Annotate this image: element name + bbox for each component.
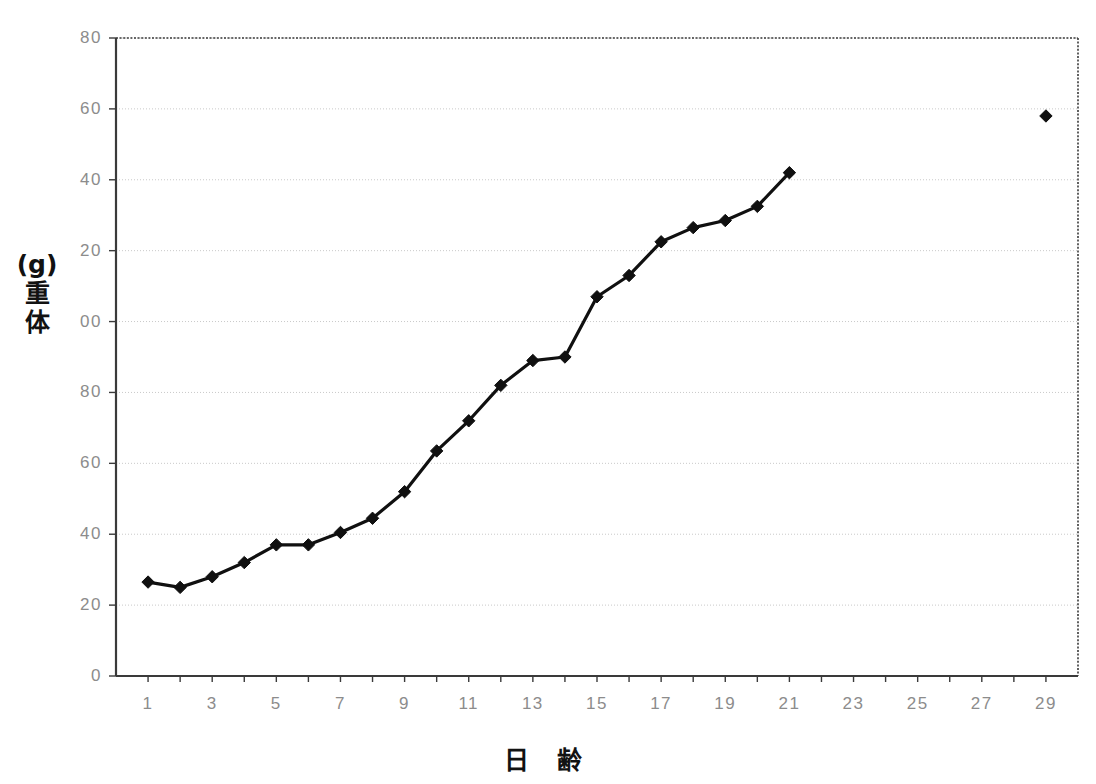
data-point-day-19 — [719, 214, 731, 226]
axis-frame — [116, 38, 1078, 676]
data-point-day-6 — [302, 539, 314, 551]
data-point-day-5 — [270, 539, 282, 551]
data-point-day-2 — [174, 581, 186, 593]
growth-chart-figure: (g) 重 体 日 齢 0204060800020406080 13579111… — [0, 0, 1096, 784]
series-markers — [142, 110, 1052, 594]
data-point-day-1 — [142, 576, 154, 588]
series-line-0 — [148, 173, 789, 588]
data-point-day-29 — [1040, 110, 1052, 122]
data-point-day-4 — [238, 556, 250, 568]
plot-area — [0, 0, 1096, 784]
data-point-day-3 — [206, 571, 218, 583]
data-point-day-14 — [559, 351, 571, 363]
series-lines — [148, 173, 789, 588]
data-point-day-7 — [334, 526, 346, 538]
gridlines — [116, 38, 1078, 605]
data-point-day-18 — [687, 221, 699, 233]
